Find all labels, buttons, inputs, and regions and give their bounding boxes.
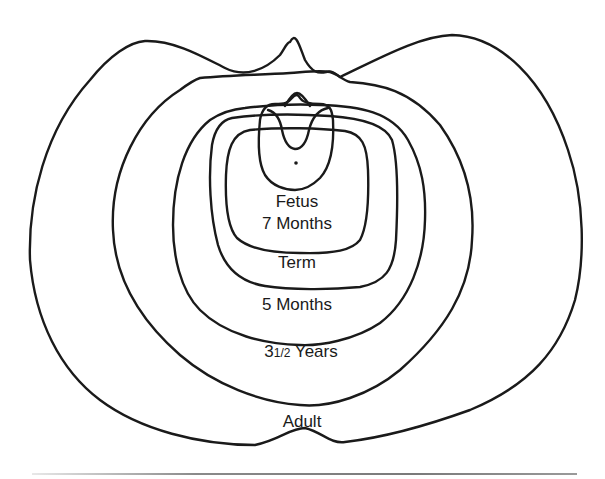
label-five-months: 5 Months <box>262 295 332 315</box>
growth-outline-diagram: Fetus 7 Months Term 5 Months 31/2 Years … <box>0 0 605 479</box>
outline-drawing <box>0 0 605 479</box>
label-fetus: Fetus <box>276 192 319 212</box>
baseline-rule <box>32 473 577 475</box>
label-three-half-years-fraction: 1/2 <box>274 346 291 360</box>
label-three-half-years: 31/2 Years <box>264 342 337 363</box>
label-adult: Adult <box>283 412 322 432</box>
label-seven-months: 7 Months <box>262 214 332 234</box>
label-three-half-years-unit: Years <box>290 342 337 361</box>
center-dot <box>294 161 298 165</box>
label-term: Term <box>278 253 316 273</box>
